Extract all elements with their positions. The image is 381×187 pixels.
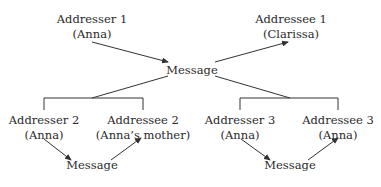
arrow-addresser1-to-message: [92, 42, 168, 62]
addresser-2-person: (Anna): [9, 128, 79, 143]
addresser-1-node: Addresser 1 (Anna): [57, 12, 127, 42]
addresser-1-role: Addresser 1: [57, 12, 127, 27]
message-1-node: Message: [166, 63, 217, 78]
addressee-1-person: (Clarissa): [255, 27, 327, 42]
addressee-3-role: Addressee 3: [302, 113, 374, 128]
addressee-3-person: (Anna): [302, 128, 374, 143]
addressee-3-node: Addressee 3 (Anna): [302, 113, 374, 143]
addresser-3-role: Addresser 3: [205, 113, 275, 128]
right-bracket: [240, 98, 338, 110]
addressee-2-role: Addressee 2: [96, 113, 190, 128]
addresser-2-node: Addresser 2 (Anna): [9, 113, 79, 143]
addressee-2-node: Addressee 2 (Anna’s mother): [96, 113, 190, 143]
addresser-1-person: (Anna): [57, 27, 127, 42]
addressee-2-person: (Anna’s mother): [96, 128, 190, 143]
left-bracket: [44, 98, 143, 110]
addresser-3-node: Addresser 3 (Anna): [205, 113, 275, 143]
message-3-node: Message: [264, 158, 315, 173]
arrow-message-to-addressee1: [215, 42, 288, 62]
link-message-to-right-bracket: [215, 76, 290, 98]
addresser-3-person: (Anna): [205, 128, 275, 143]
addresser-2-role: Addresser 2: [9, 113, 79, 128]
addressee-1-node: Addressee 1 (Clarissa): [255, 12, 327, 42]
link-message-to-left-bracket: [92, 76, 168, 98]
message-2-node: Message: [66, 158, 117, 173]
addressee-1-role: Addressee 1: [255, 12, 327, 27]
